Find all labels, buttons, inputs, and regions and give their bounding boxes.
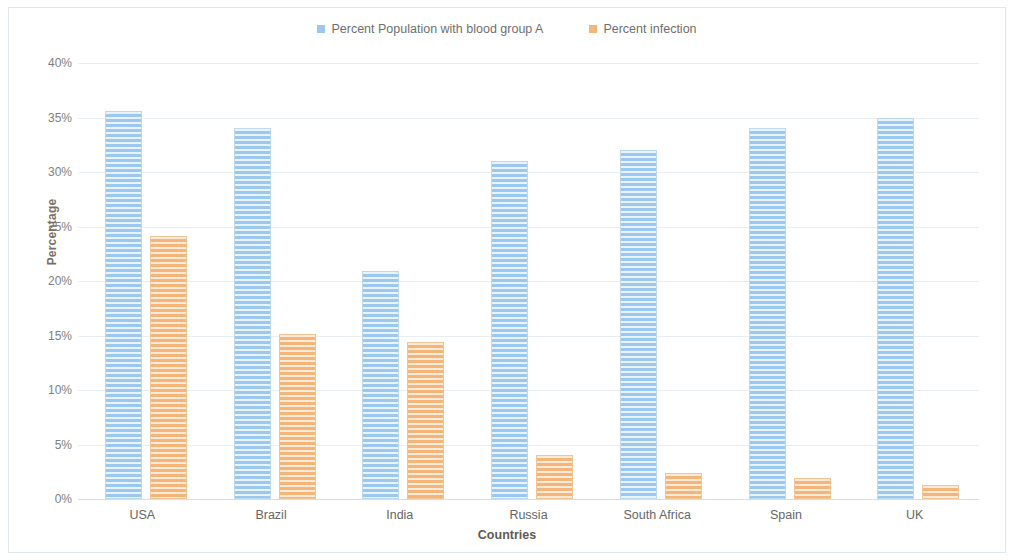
- bar-group: [78, 63, 207, 499]
- x-axis-tick-label: Spain: [722, 508, 851, 522]
- bar-series-a[interactable]: [234, 128, 271, 499]
- bar-group: [593, 63, 722, 499]
- y-axis-tick-label: 40%: [30, 56, 72, 70]
- x-axis-tick-label: India: [335, 508, 464, 522]
- y-axis-tick-label: 10%: [30, 383, 72, 397]
- bar-group: [722, 63, 851, 499]
- legend-entry-series-b[interactable]: Percent infection: [589, 22, 696, 36]
- plot-area: [78, 63, 979, 499]
- bar-series-a[interactable]: [749, 128, 786, 499]
- bar-series-b[interactable]: [794, 478, 831, 499]
- bar-series-b[interactable]: [407, 342, 444, 499]
- x-axis-tick-label: South Africa: [593, 508, 722, 522]
- bar-series-a[interactable]: [491, 161, 528, 499]
- bar-series-a[interactable]: [620, 150, 657, 499]
- gridline: [78, 499, 979, 500]
- bar-series-b[interactable]: [536, 455, 573, 499]
- x-axis-tick-label: Brazil: [207, 508, 336, 522]
- x-axis-tick-label: USA: [78, 508, 207, 522]
- bar-series-b[interactable]: [150, 236, 187, 499]
- bar-series-b[interactable]: [665, 473, 702, 499]
- y-axis-tick-label: 35%: [30, 111, 72, 125]
- x-axis-tick-label: Russia: [464, 508, 593, 522]
- chart-screenshot: Percent Population with blood group A Pe…: [0, 0, 1014, 560]
- y-axis-title: Percentage: [42, 172, 62, 292]
- legend-label-series-b: Percent infection: [603, 22, 696, 36]
- bar-series-b[interactable]: [922, 485, 959, 499]
- x-axis-title: Countries: [0, 528, 1014, 542]
- x-axis-tick-label: UK: [850, 508, 979, 522]
- bar-series-a[interactable]: [877, 118, 914, 500]
- legend-swatch-series-a: [317, 25, 325, 33]
- y-axis-tick-label: 0%: [30, 492, 72, 506]
- bar-group: [207, 63, 336, 499]
- chart-legend: Percent Population with blood group A Pe…: [0, 20, 1014, 38]
- y-axis-tick-label: 15%: [30, 329, 72, 343]
- legend-swatch-series-b: [589, 25, 597, 33]
- legend-entry-series-a[interactable]: Percent Population with blood group A: [317, 22, 543, 36]
- y-axis-tick-label: 5%: [30, 438, 72, 452]
- bar-group: [850, 63, 979, 499]
- legend-label-series-a: Percent Population with blood group A: [331, 22, 543, 36]
- bar-group: [464, 63, 593, 499]
- bar-group: [335, 63, 464, 499]
- bar-series-b[interactable]: [279, 334, 316, 499]
- bar-series-a[interactable]: [362, 271, 399, 499]
- bar-series-a[interactable]: [105, 111, 142, 499]
